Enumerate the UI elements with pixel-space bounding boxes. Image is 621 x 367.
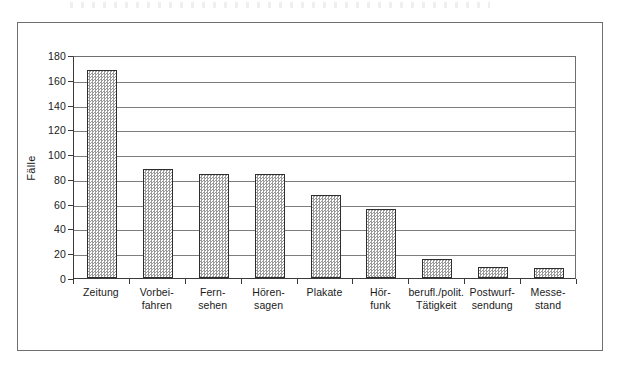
x-axis-label: Messe-stand (520, 286, 576, 311)
figure-frame: Fälle 020406080100120140160180 ZeitungVo… (17, 22, 603, 351)
bar (478, 267, 508, 278)
x-axis-label-line1: Messe- (531, 286, 566, 298)
x-axis-label: Plakate (297, 286, 353, 299)
x-tick-mark (520, 279, 521, 284)
x-tick-mark (185, 279, 186, 284)
x-axis-label-line1: berufl./polit. (408, 286, 464, 298)
y-tick-label: 0 (32, 273, 66, 285)
bar (143, 169, 173, 278)
y-tick-label: 40 (32, 223, 66, 235)
bar-chart: Fälle 020406080100120140160180 ZeitungVo… (18, 23, 604, 352)
x-axis-label-line1: Postwurf- (470, 286, 515, 298)
gridline (74, 156, 575, 157)
x-axis-label-line1: Hör- (370, 286, 391, 298)
y-tick-label: 180 (32, 50, 66, 62)
x-axis-label-line1: Fern- (200, 286, 226, 298)
x-axis-label: Postwurf-sendung (464, 286, 520, 311)
x-axis-label: Fern-sehen (185, 286, 241, 311)
scan-artifact (70, 2, 490, 8)
x-axis-label-line2: fahren (129, 299, 185, 312)
x-tick-mark (297, 279, 298, 284)
y-axis-title: Fälle (24, 56, 38, 279)
x-tick-mark (408, 279, 409, 284)
x-tick-mark (73, 279, 74, 284)
x-axis-label-line2: Tätigkeit (408, 299, 464, 312)
x-axis-label: berufl./polit.Tätigkeit (408, 286, 464, 311)
gridline (74, 82, 575, 83)
plot-area (73, 56, 576, 279)
x-tick-mark (576, 279, 577, 284)
y-tick-label: 100 (32, 149, 66, 161)
bar (366, 209, 396, 278)
x-tick-mark (464, 279, 465, 284)
y-tick-label: 140 (32, 100, 66, 112)
x-axis-label-line2: sagen (241, 299, 297, 312)
y-tick-label: 60 (32, 199, 66, 211)
x-axis-label-line2: sehen (185, 299, 241, 312)
x-tick-mark (241, 279, 242, 284)
gridline (74, 131, 575, 132)
x-axis-label: Hören-sagen (241, 286, 297, 311)
x-axis-label-line2: stand (520, 299, 576, 312)
bar (87, 70, 117, 278)
x-tick-mark (129, 279, 130, 284)
x-axis-label-line1: Hören- (252, 286, 285, 298)
x-axis-label-line1: Vorbei- (140, 286, 174, 298)
y-tick-label: 20 (32, 248, 66, 260)
gridline (74, 107, 575, 108)
x-tick-mark (352, 279, 353, 284)
x-axis-label: Hör-funk (352, 286, 408, 311)
bar (534, 268, 564, 278)
y-tick-label: 80 (32, 174, 66, 186)
y-tick-label: 160 (32, 75, 66, 87)
x-axis-label-line1: Plakate (307, 286, 343, 298)
x-axis-label-line1: Zeitung (83, 286, 119, 298)
x-axis-label-line2: sendung (464, 299, 520, 312)
y-tick-label: 120 (32, 124, 66, 136)
x-axis-label: Vorbei-fahren (129, 286, 185, 311)
bar (422, 259, 452, 278)
bar (199, 174, 229, 278)
x-axis-label-line2: funk (352, 299, 408, 312)
x-axis-label: Zeitung (73, 286, 129, 299)
bar (255, 174, 285, 278)
bar (311, 195, 341, 278)
